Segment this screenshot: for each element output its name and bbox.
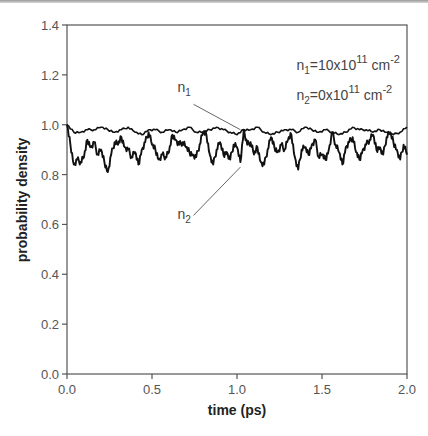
data-series — [67, 125, 407, 172]
annotation-label: n1=10x1011 cm-2 — [297, 53, 400, 76]
x-tick-label: 2.0 — [398, 382, 416, 397]
x-tick-label: 1.0 — [228, 382, 246, 397]
annotation-label: n1 — [178, 79, 192, 98]
y-tick-label: 0.0 — [41, 367, 59, 382]
x-axis: 0.00.51.01.52.0 — [58, 374, 416, 397]
y-tick-label: 1.2 — [41, 68, 59, 83]
pointer-line — [194, 167, 241, 215]
y-axis: 0.00.20.40.60.81.01.21.4 — [41, 18, 67, 382]
pointer-line — [194, 104, 241, 129]
y-tick-label: 1.0 — [41, 118, 59, 133]
y-tick-label: 0.4 — [41, 267, 59, 282]
y-tick-label: 1.4 — [41, 18, 59, 33]
annotation-label: n2 — [178, 206, 192, 225]
x-tick-label: 1.5 — [313, 382, 331, 397]
y-tick-label: 0.8 — [41, 168, 59, 183]
x-tick-label: 0.5 — [143, 382, 161, 397]
annotation-label: n2=0x1011 cm-2 — [297, 83, 393, 106]
line-chart: 0.00.20.40.60.81.01.21.4 0.00.51.01.52.0… — [0, 0, 428, 436]
plot-frame — [67, 25, 407, 374]
y-axis-title: probability density — [14, 138, 30, 263]
x-tick-label: 0.0 — [58, 382, 76, 397]
series-line-n1 — [67, 125, 407, 135]
y-tick-label: 0.2 — [41, 317, 59, 332]
x-axis-title: time (ps) — [208, 402, 266, 418]
y-tick-label: 0.6 — [41, 217, 59, 232]
